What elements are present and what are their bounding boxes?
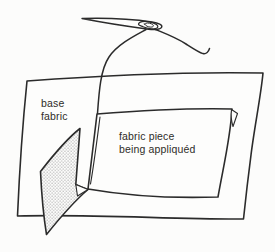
label-line: fabric piece: [119, 130, 195, 143]
illustration-canvas: [0, 0, 275, 252]
fabric-piece-label: fabric piece being appliquéd: [119, 130, 195, 155]
label-line: fabric: [41, 110, 68, 123]
applique-illustration: base fabric fabric piece being appliquéd: [0, 0, 275, 252]
thread-tail: [156, 30, 210, 54]
needle-drawing: [82, 18, 162, 29]
label-line: being appliquéd: [119, 143, 195, 156]
label-line: base: [41, 97, 68, 110]
base-fabric-label: base fabric: [41, 97, 68, 122]
